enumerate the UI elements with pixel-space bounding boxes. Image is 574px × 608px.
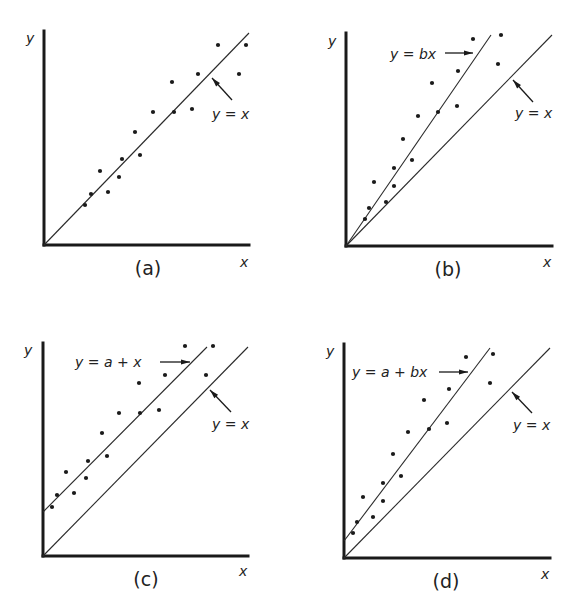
reference-line-y-x xyxy=(346,35,552,246)
data-point xyxy=(488,381,492,385)
x-axis-label: x xyxy=(239,254,249,270)
data-point xyxy=(445,421,449,425)
data-point xyxy=(391,452,395,456)
x-axis-label: x xyxy=(238,563,248,579)
data-point xyxy=(406,430,410,434)
y-axis-label: y xyxy=(325,343,335,359)
panel-caption: (a) xyxy=(135,257,161,279)
regression-comparison-figure: yx(a)y = x yx(b)y = bxy = x yx(c)y = a +… xyxy=(0,0,574,608)
data-point xyxy=(157,408,161,412)
data-point xyxy=(55,493,59,497)
panel-caption: (d) xyxy=(433,570,460,592)
data-point xyxy=(50,505,54,509)
data-point xyxy=(381,499,385,503)
data-point xyxy=(381,481,385,485)
data-point xyxy=(86,459,90,463)
data-point xyxy=(399,474,403,478)
data-point xyxy=(436,110,440,114)
data-point xyxy=(137,381,141,385)
data-point xyxy=(151,110,155,114)
panel-d: yx(d)y = a + bxy = x xyxy=(325,343,551,592)
data-point xyxy=(430,81,434,85)
data-point xyxy=(372,180,376,184)
x-axis-label: x xyxy=(540,566,550,582)
data-point xyxy=(138,153,142,157)
data-point xyxy=(427,427,431,431)
data-point xyxy=(170,80,174,84)
data-point xyxy=(120,157,124,161)
equation-label: y = a + bx xyxy=(351,364,428,380)
data-point xyxy=(100,431,104,435)
data-point xyxy=(216,43,220,47)
data-point xyxy=(84,476,88,480)
data-point xyxy=(172,110,176,114)
y-axis-label: y xyxy=(23,342,33,358)
equation-label: y = a + x xyxy=(74,354,142,370)
data-point xyxy=(196,72,200,76)
data-point xyxy=(361,495,365,499)
data-point xyxy=(89,192,93,196)
data-point xyxy=(384,200,388,204)
data-point xyxy=(464,355,468,359)
annotation-arrowhead-icon xyxy=(459,369,468,374)
data-point xyxy=(363,217,367,221)
data-point xyxy=(83,203,87,207)
data-point xyxy=(367,206,371,210)
equation-label: y = bx xyxy=(389,46,437,62)
data-point xyxy=(416,114,420,118)
equation-label: y = x xyxy=(512,417,551,433)
data-point xyxy=(190,107,194,111)
x-axis-label: x xyxy=(542,254,552,270)
data-point xyxy=(105,454,109,458)
panel-caption: (c) xyxy=(133,568,158,590)
data-point xyxy=(72,491,76,495)
data-point xyxy=(64,470,68,474)
panel-c: yx(c)y = a + xy = x xyxy=(23,342,250,590)
data-point xyxy=(355,520,359,524)
y-axis-label: y xyxy=(25,30,35,46)
data-point xyxy=(471,37,475,41)
data-point xyxy=(351,531,355,535)
data-point xyxy=(491,352,495,356)
data-point xyxy=(244,43,248,47)
data-point xyxy=(392,184,396,188)
panel-a: yx(a)y = x xyxy=(25,30,250,279)
data-point xyxy=(163,373,167,377)
annotation-arrowhead-icon xyxy=(181,359,190,364)
y-axis-label: y xyxy=(327,33,337,49)
data-point xyxy=(410,158,414,162)
panel-b: yx(b)y = bxy = x xyxy=(327,33,553,280)
data-point xyxy=(392,166,396,170)
data-point xyxy=(117,411,121,415)
data-point xyxy=(401,137,405,141)
data-point xyxy=(371,515,375,519)
data-point xyxy=(237,72,241,76)
reference-line-y-bx xyxy=(346,35,491,246)
data-point xyxy=(106,190,110,194)
data-point xyxy=(117,175,121,179)
data-point xyxy=(499,33,503,37)
panel-caption: (b) xyxy=(435,258,462,280)
data-point xyxy=(98,169,102,173)
equation-label: y = x xyxy=(514,105,553,121)
data-point xyxy=(422,398,426,402)
equation-label: y = x xyxy=(211,416,250,432)
data-point xyxy=(447,387,451,391)
annotation-arrowhead-icon xyxy=(464,50,473,55)
data-point xyxy=(204,373,208,377)
data-point xyxy=(455,104,459,108)
data-point xyxy=(456,69,460,73)
data-point xyxy=(133,130,137,134)
data-point xyxy=(496,62,500,66)
data-point xyxy=(138,411,142,415)
reference-line-y-a-x xyxy=(43,347,207,512)
reference-line-y-x xyxy=(43,347,248,556)
equation-label: y = x xyxy=(211,106,250,122)
data-point xyxy=(211,344,215,348)
reference-line-y-x xyxy=(44,33,249,245)
data-point xyxy=(183,344,187,348)
